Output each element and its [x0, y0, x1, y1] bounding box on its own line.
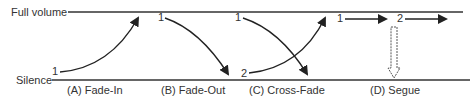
segue-cut-arrow — [388, 27, 400, 78]
cross-fade-out-arrow — [243, 18, 307, 74]
fade-in-arrow — [60, 18, 138, 72]
full-volume-label: Full volume — [11, 7, 67, 18]
marker-c-1: 1 — [235, 12, 241, 23]
caption-fade-in: (A) Fade-In — [67, 85, 123, 96]
caption-cross-fade: (C) Cross-Fade — [249, 85, 325, 96]
silence-label: Silence — [16, 75, 52, 86]
caption-segue: (D) Segue — [370, 85, 420, 96]
marker-c-2: 2 — [241, 68, 247, 79]
marker-a-1: 1 — [52, 66, 58, 77]
marker-d-2: 2 — [397, 13, 403, 24]
marker-b-1: 1 — [158, 12, 164, 23]
caption-fade-out: (B) Fade-Out — [161, 85, 225, 96]
fade-out-arrow — [165, 18, 228, 74]
marker-d-1: 1 — [337, 13, 343, 24]
